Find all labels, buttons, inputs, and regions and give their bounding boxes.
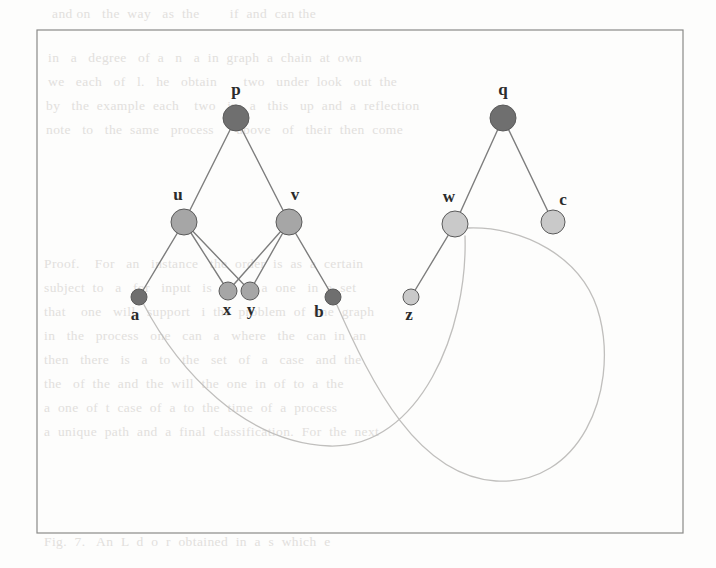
node-label-p: p [231,80,240,99]
node-label-c: c [559,190,567,209]
node-label-a: a [131,305,140,324]
node-a[interactable] [131,289,147,305]
figure-root: and on the way as the if and can thein a… [0,0,716,568]
node-label-z: z [405,305,413,324]
node-label-w: w [443,187,456,206]
graph-figure-svg: and on the way as the if and can thein a… [0,0,716,568]
bleed-text-line: a one of t case of a to the time of a pr… [44,400,337,415]
bleed-text-line: Fig. 7. An L d o r obtained in a s which… [44,534,331,549]
node-b[interactable] [325,289,341,305]
node-x[interactable] [219,282,237,300]
node-c[interactable] [541,210,565,234]
edge-b-w [336,228,604,481]
bleed-text-line: in the process one can a where the can i… [44,328,366,343]
node-y[interactable] [241,282,259,300]
node-label-y: y [247,300,256,319]
node-q[interactable] [490,105,516,131]
node-p[interactable] [223,105,249,131]
node-label-q: q [498,80,508,99]
bleed-text-line: a unique path and a final classification… [44,424,379,439]
bleed-text-line: the of the and the will the one in of to… [44,376,344,391]
bleed-text-line: and on the way as the if and can the [52,6,316,21]
bleed-text-line: that one will support i the problem of o… [44,304,374,319]
bleed-text-line: subject to a for input is m, or a one in… [44,280,356,295]
node-v[interactable] [276,209,302,235]
bleed-text-line: in a degree of a n a in graph a chain at… [48,50,362,65]
node-label-v: v [291,185,300,204]
bleed-text-line: Proof. For an instance the order is as a… [44,256,363,271]
node-label-x: x [223,300,232,319]
node-z[interactable] [403,289,419,305]
edge-q-c [503,118,553,222]
node-u[interactable] [171,209,197,235]
edge-q-w [455,118,503,224]
node-label-b: b [314,302,323,321]
node-w[interactable] [442,211,468,237]
bleed-text-line: then there is a to the set of a case and… [44,352,362,367]
node-label-u: u [173,185,182,204]
bleed-text-line: we each of l. he obtain two under look o… [48,74,397,89]
